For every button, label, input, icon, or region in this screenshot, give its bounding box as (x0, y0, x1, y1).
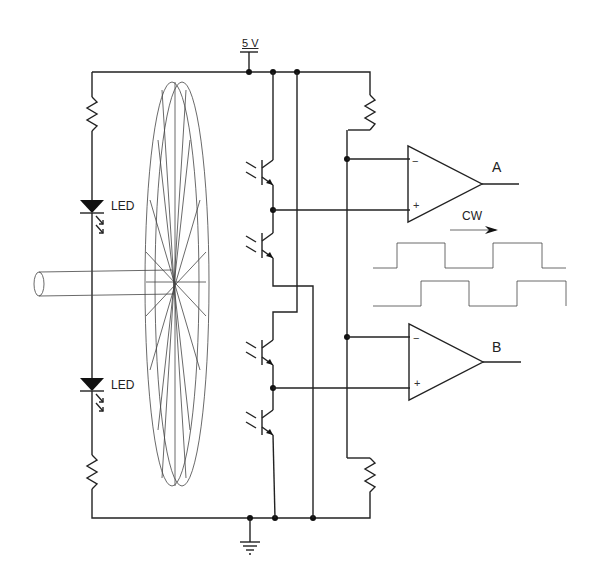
led-top-label: LED (111, 200, 134, 212)
led-branch (80, 72, 104, 500)
light-emission-icon (96, 216, 103, 233)
comparator-b-icon (409, 324, 521, 400)
output-b-label: B (492, 340, 501, 354)
supply-voltage-label: 5 V (242, 38, 259, 49)
waveform-a (373, 243, 566, 268)
ground-icon (240, 542, 260, 554)
reference-divider (344, 95, 410, 497)
led-bottom-icon (80, 378, 104, 391)
quadrature-waveforms (373, 243, 566, 306)
waveform-b (373, 281, 566, 306)
phototransistor-4-icon (246, 410, 273, 435)
encoder-disk (145, 82, 209, 486)
resistor-icon (365, 95, 375, 130)
phototransistor-1-icon (246, 160, 273, 185)
quadrature-encoder-circuit (0, 0, 595, 585)
phototransistor-3-icon (246, 340, 273, 365)
comparator-a-minus: − (412, 156, 418, 167)
resistor-icon (365, 458, 375, 497)
comparator-a-plus: + (413, 200, 419, 211)
light-emission-icon (96, 394, 103, 411)
cw-arrow-icon (450, 226, 498, 234)
phototransistor-stack (246, 72, 410, 518)
output-a-label: A (492, 160, 501, 174)
shaft (34, 270, 174, 296)
phototransistor-2-icon (246, 233, 273, 258)
comparator-b-minus: − (413, 333, 419, 344)
comparator-b-plus: + (414, 378, 420, 389)
direction-label: CW (462, 210, 482, 222)
ground-rail (92, 497, 370, 542)
led-bottom-label: LED (111, 379, 134, 391)
led-top-icon (80, 200, 104, 213)
resistor-icon (87, 97, 97, 131)
supply-rail (92, 52, 370, 95)
resistor-icon (87, 455, 97, 489)
